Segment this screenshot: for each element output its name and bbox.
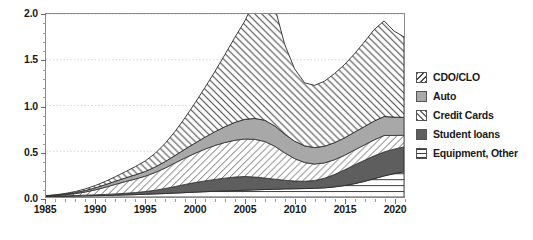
legend-item[interactable]: CDO/CLO <box>416 68 531 87</box>
plot-area <box>45 13 405 198</box>
x-tick-mark-minor <box>135 199 136 202</box>
y-tick-mark <box>41 153 46 154</box>
y-tick-mark-minor <box>43 88 46 89</box>
y-tick-mark-minor <box>43 79 46 80</box>
x-tick-mark-minor <box>75 199 76 202</box>
solid-gray-swatch <box>416 91 427 102</box>
y-tick-mark-minor <box>43 97 46 98</box>
y-tick-label: 2.0 <box>24 7 38 19</box>
x-tick-mark-minor <box>205 199 206 202</box>
y-tick-mark-minor <box>43 42 46 43</box>
stacked-area-chart-figure: 0.00.51.01.52.0 <box>0 0 533 240</box>
x-tick-mark-minor <box>55 199 56 202</box>
x-tick-mark-minor <box>65 199 66 202</box>
x-tick-mark-minor <box>105 199 106 202</box>
x-tick-mark-minor <box>275 199 276 202</box>
x-tick-mark-minor <box>285 199 286 202</box>
x-tick-mark-minor <box>255 199 256 202</box>
x-tick-label: 2000 <box>184 203 207 215</box>
y-tick-mark-minor <box>43 162 46 163</box>
y-tick-mark-minor <box>43 51 46 52</box>
y-tick-label: 1.0 <box>24 100 38 112</box>
x-tick-label: 2010 <box>284 203 307 215</box>
y-tick-mark-minor <box>43 33 46 34</box>
x-tick-mark-minor <box>355 199 356 202</box>
hatch-backslash-swatch <box>416 72 427 83</box>
y-tick-mark-minor <box>43 116 46 117</box>
y-tick-mark-minor <box>43 23 46 24</box>
y-tick-mark-minor <box>43 70 46 71</box>
x-tick-mark-minor <box>85 199 86 202</box>
x-tick-mark-minor <box>115 199 116 202</box>
x-tick-mark-minor <box>125 199 126 202</box>
legend-item[interactable]: Credit Cards <box>416 106 531 125</box>
x-axis: 19851990199520002005201020152020 <box>0 200 533 222</box>
y-tick-mark-minor <box>43 190 46 191</box>
legend-label: Credit Cards <box>433 110 494 121</box>
y-tick-mark-minor <box>43 125 46 126</box>
x-tick-mark-minor <box>335 199 336 202</box>
horizontal-lines-swatch <box>416 148 427 159</box>
y-tick-mark <box>41 107 46 108</box>
x-tick-mark-minor <box>185 199 186 202</box>
x-tick-label: 1995 <box>134 203 157 215</box>
y-tick-mark-minor <box>43 181 46 182</box>
y-tick-mark <box>41 14 46 15</box>
x-tick-mark-minor <box>365 199 366 202</box>
y-tick-label: 0.5 <box>24 146 38 158</box>
legend-label: Student loans <box>433 129 500 140</box>
hatch-slash-swatch <box>416 110 427 121</box>
x-tick-label: 2015 <box>334 203 357 215</box>
x-tick-label: 1985 <box>34 203 57 215</box>
solid-darkgray-swatch <box>416 129 427 140</box>
y-axis-ticks <box>46 14 404 197</box>
legend-item[interactable]: Auto <box>416 87 531 106</box>
x-tick-mark-minor <box>235 199 236 202</box>
x-tick-mark-minor <box>175 199 176 202</box>
x-tick-mark-minor <box>375 199 376 202</box>
x-tick-mark-minor <box>405 199 406 202</box>
x-tick-mark-minor <box>225 199 226 202</box>
y-tick-mark-minor <box>43 134 46 135</box>
legend-item[interactable]: Student loans <box>416 125 531 144</box>
x-tick-mark-minor <box>165 199 166 202</box>
legend-label: Equipment, Other <box>433 148 518 159</box>
x-axis-ticks <box>0 200 533 222</box>
x-tick-mark-minor <box>315 199 316 202</box>
x-tick-label: 2020 <box>384 203 407 215</box>
y-tick-label: 1.5 <box>24 53 38 65</box>
x-tick-mark-minor <box>215 199 216 202</box>
y-tick-mark <box>41 60 46 61</box>
legend-label: CDO/CLO <box>433 72 480 83</box>
x-tick-mark-minor <box>325 199 326 202</box>
x-tick-mark-minor <box>265 199 266 202</box>
legend-label: Auto <box>433 91 456 102</box>
x-tick-mark-minor <box>305 199 306 202</box>
chart-legend: CDO/CLOAutoCredit CardsStudent loansEqui… <box>416 68 531 163</box>
x-tick-mark-minor <box>385 199 386 202</box>
y-tick-mark-minor <box>43 171 46 172</box>
y-tick-mark-minor <box>43 144 46 145</box>
x-tick-label: 1990 <box>84 203 107 215</box>
legend-item[interactable]: Equipment, Other <box>416 144 531 163</box>
x-tick-mark-minor <box>155 199 156 202</box>
x-tick-label: 2005 <box>234 203 257 215</box>
